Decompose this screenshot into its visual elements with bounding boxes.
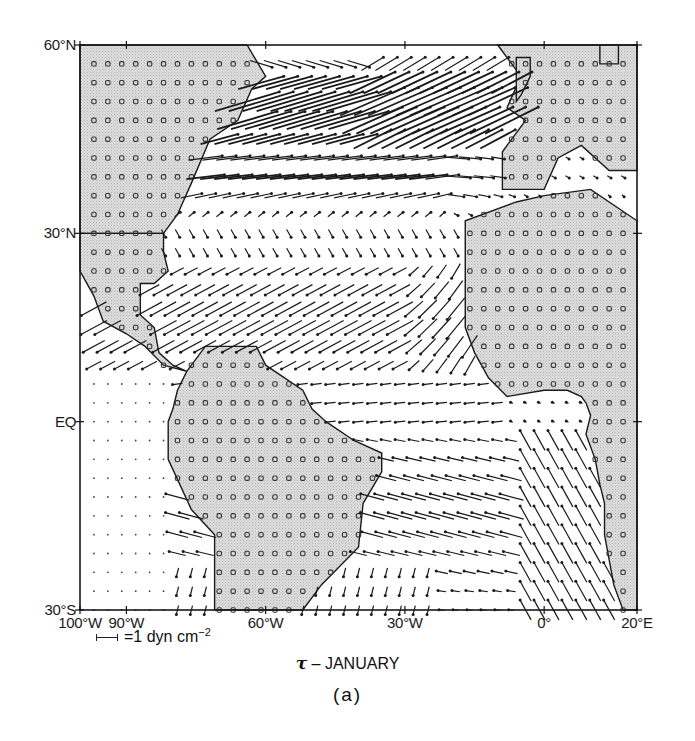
vector-head	[430, 530, 433, 533]
vector-head	[82, 351, 85, 354]
vector-head	[207, 351, 210, 354]
vector-head	[533, 504, 536, 507]
vector-head	[280, 368, 283, 371]
vector-head	[375, 294, 378, 297]
vector-head	[166, 294, 169, 297]
calm-point	[107, 515, 109, 517]
vector-head	[328, 613, 331, 616]
vector-head	[450, 383, 453, 386]
vector-head	[408, 402, 411, 405]
vector-head	[443, 211, 446, 214]
vector-head	[401, 511, 404, 514]
stress-vector	[590, 525, 601, 545]
vector-head	[334, 90, 337, 93]
stress-vector	[407, 284, 421, 296]
vector-head	[349, 550, 352, 553]
vector-head	[503, 456, 506, 459]
calm-point	[107, 383, 109, 385]
stress-vector	[345, 320, 371, 334]
vector-head	[342, 575, 345, 578]
vector-head	[574, 561, 577, 564]
vector-head	[284, 66, 287, 69]
calm-point	[93, 590, 95, 592]
vector-head	[123, 351, 126, 354]
vector-head	[304, 236, 307, 239]
vector-head	[447, 456, 450, 459]
vector-head	[331, 314, 334, 317]
vector-head	[298, 66, 301, 69]
vector-head	[328, 594, 331, 597]
vector-head	[345, 110, 348, 113]
vector-head	[113, 368, 116, 371]
vector-head	[560, 429, 563, 432]
vector-head	[346, 351, 349, 354]
vector-head	[374, 211, 377, 214]
vector-head	[290, 236, 293, 239]
calm-point	[163, 458, 165, 460]
stress-vector	[269, 268, 281, 275]
stress-vector	[221, 302, 246, 316]
vector-head	[303, 110, 306, 113]
vector-head	[192, 255, 195, 258]
scale-exponent: −2	[198, 626, 211, 638]
vector-head	[498, 106, 501, 109]
vector-head	[342, 613, 345, 616]
vector-head	[320, 133, 323, 136]
vector-head	[381, 192, 384, 195]
vector-head	[359, 236, 362, 239]
vector-head	[435, 438, 438, 441]
stress-vector	[562, 525, 573, 545]
vector-head	[221, 211, 224, 214]
vector-head	[493, 56, 496, 59]
vector-head	[582, 176, 585, 179]
vector-head	[93, 333, 96, 336]
panel-label: (a)	[0, 684, 695, 706]
vector-head	[554, 176, 557, 179]
stress-vector	[395, 440, 405, 442]
stress-vector	[207, 302, 232, 316]
calm-point	[107, 458, 109, 460]
vector-head	[266, 368, 269, 371]
stress-vector	[403, 57, 425, 70]
vector-head	[412, 594, 415, 597]
vector-head	[546, 523, 549, 526]
stress-vector	[590, 506, 601, 526]
vector-head	[275, 314, 278, 317]
vector-head	[338, 402, 341, 405]
calm-point	[163, 515, 165, 517]
vector-head	[422, 369, 425, 372]
stress-vector	[590, 562, 601, 582]
vector-head	[588, 523, 591, 526]
vector-head	[178, 511, 181, 514]
stress-vector	[178, 320, 204, 334]
calm-point	[149, 421, 151, 423]
stress-vector	[374, 513, 398, 520]
vector-head	[326, 192, 329, 195]
vector-head	[533, 467, 536, 470]
vector-head	[488, 195, 491, 198]
vector-head	[333, 294, 336, 297]
stress-vector	[310, 268, 322, 275]
vector-head	[262, 255, 265, 258]
vector-head	[491, 421, 494, 424]
calm-point	[135, 383, 137, 385]
stress-vector	[365, 361, 380, 369]
vector-head	[530, 70, 533, 73]
vector-head	[253, 273, 256, 276]
vector-head	[312, 192, 315, 195]
vector-head	[551, 420, 554, 423]
vector-head	[196, 550, 199, 553]
vector-head	[171, 383, 174, 386]
vector-head	[519, 504, 522, 507]
stress-vector	[171, 268, 183, 275]
vector-head	[610, 176, 613, 179]
vector-head	[457, 236, 460, 239]
vector-head	[354, 66, 357, 69]
vector-head	[465, 56, 468, 59]
stress-vector	[506, 571, 518, 573]
vector-head	[408, 70, 411, 73]
stress-vector	[248, 302, 273, 316]
vector-head	[537, 106, 540, 109]
calm-point	[107, 553, 109, 555]
vector-head	[568, 176, 571, 179]
